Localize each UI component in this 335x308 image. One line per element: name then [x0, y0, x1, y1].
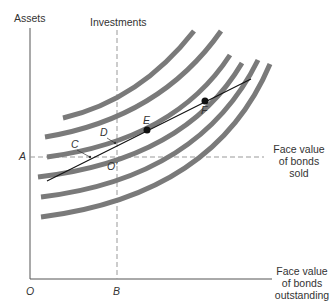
a-label: A [19, 150, 26, 162]
curves [38, 31, 270, 217]
point-f-label: F [201, 104, 207, 116]
x-axis-label: Face value of bonds outstanding [270, 265, 334, 301]
b-label: B [113, 285, 120, 297]
bonds-sold-label: Face value of bonds sold [264, 143, 334, 179]
o-prime-label: O' [107, 160, 117, 172]
point-c-label: C [71, 138, 79, 150]
d-tick [114, 142, 116, 144]
x-label-line-3: outstanding [270, 289, 334, 301]
c-tick [89, 156, 91, 158]
sold-label-line-3: sold [264, 167, 334, 179]
origin-label: O [26, 285, 34, 297]
sold-label-line-2: of bonds [264, 155, 334, 167]
sold-label-line-1: Face value [264, 143, 334, 155]
point-e-dot [144, 127, 151, 134]
y-axis-label: Assets [14, 12, 46, 24]
x-label-line-1: Face value [270, 265, 334, 277]
investments-label: Investments [90, 16, 147, 28]
curve-1 [63, 31, 194, 118]
point-d-label: D [100, 126, 108, 138]
point-e-label: E [143, 114, 150, 126]
x-label-line-2: of bonds [270, 277, 334, 289]
